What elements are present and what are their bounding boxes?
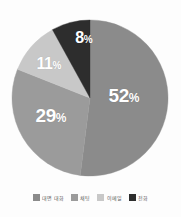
pie-slice-percent-sign: % — [53, 60, 62, 71]
legend-item-label: 채팅 — [80, 194, 90, 201]
legend-item-label: 이메일 — [107, 194, 122, 201]
pie-svg — [0, 0, 181, 182]
legend-item-label: 전화 — [138, 194, 148, 201]
legend-item[interactable]: 채팅 — [71, 194, 91, 201]
chart-legend: 대면 대화채팅이메일전화 — [0, 189, 181, 205]
pie-slice-label: 11% — [37, 56, 62, 72]
pie-chart-figure: 52%29%11%8% 대면 대화채팅이메일전화 — [0, 0, 181, 217]
pie-slice-percent-sign: % — [56, 111, 67, 125]
legend-color-swatch — [97, 194, 104, 201]
legend-color-swatch — [129, 194, 136, 201]
pie-slice-percent-sign: % — [84, 34, 93, 45]
pie-slice-value: 11 — [37, 55, 53, 72]
pie-slice-value: 52 — [109, 85, 129, 106]
pie-slice-value: 29 — [36, 105, 56, 126]
pie-slice-label: 29% — [36, 106, 67, 125]
legend-item[interactable]: 전화 — [129, 194, 149, 201]
legend-item-label: 대면 대화 — [42, 194, 63, 201]
legend-color-swatch — [33, 194, 40, 201]
pie-slice-label: 8% — [75, 30, 92, 46]
legend-item[interactable]: 이메일 — [97, 194, 122, 201]
pie-slice-label: 52% — [109, 86, 140, 105]
pie-chart-plot-area: 52%29%11%8% — [0, 0, 181, 182]
legend-color-swatch — [71, 194, 78, 201]
legend-item[interactable]: 대면 대화 — [33, 194, 64, 201]
pie-slice-percent-sign: % — [129, 91, 140, 105]
